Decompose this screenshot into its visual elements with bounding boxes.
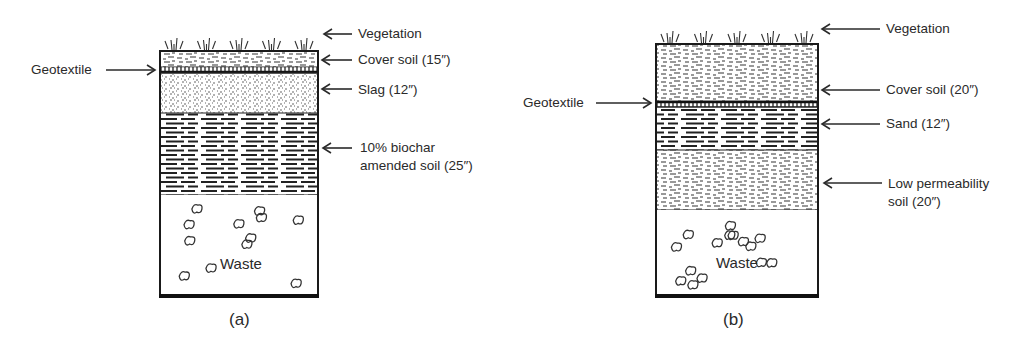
caption-b: (b) bbox=[723, 310, 744, 330]
layer-low-permeability-soil bbox=[656, 150, 818, 210]
vegetation-icon bbox=[230, 38, 248, 50]
layer-geotextile bbox=[160, 67, 318, 73]
landfill-cover-diagram bbox=[0, 0, 1031, 350]
layer-slag bbox=[160, 73, 318, 113]
label-geotextile-b: Geotextile bbox=[523, 94, 584, 111]
vegetation-icon bbox=[728, 31, 746, 43]
vegetation-icon bbox=[661, 31, 679, 43]
layer-geotextile bbox=[656, 101, 818, 107]
layer-cover-soil bbox=[160, 51, 318, 67]
label-waste-a: Waste bbox=[220, 255, 262, 272]
layer-waste bbox=[656, 210, 818, 296]
label-vegetation-b: Vegetation bbox=[886, 20, 950, 37]
label-cover-soil-a: Cover soil (15″) bbox=[358, 51, 451, 68]
vegetation-icon bbox=[795, 31, 813, 43]
layer-waste bbox=[160, 195, 318, 296]
vegetation-icon bbox=[263, 38, 281, 50]
label-biochar-a-line2: amended soil (25″) bbox=[360, 157, 473, 174]
vegetation-icon bbox=[295, 38, 313, 50]
vegetation-icon bbox=[762, 31, 780, 43]
label-cover-soil-b: Cover soil (20″) bbox=[886, 81, 979, 98]
label-sand-b: Sand (12″) bbox=[886, 115, 950, 132]
layer-biochar-amended-soil bbox=[160, 113, 318, 195]
label-slag-a: Slag (12″) bbox=[358, 81, 418, 98]
label-geotextile-a: Geotextile bbox=[31, 61, 92, 78]
label-biochar-a-line1: 10% biochar bbox=[360, 139, 435, 156]
label-vegetation-a: Vegetation bbox=[358, 25, 422, 42]
label-lowperm-b-line2: soil (20″) bbox=[888, 193, 941, 210]
vegetation-icon bbox=[198, 38, 216, 50]
vegetation-icon bbox=[165, 38, 183, 50]
layer-cover-soil bbox=[656, 44, 818, 101]
label-lowperm-b-line1: Low permeability bbox=[888, 175, 989, 192]
vegetation-icon bbox=[695, 31, 713, 43]
label-waste-b: Waste bbox=[716, 254, 758, 271]
caption-a: (a) bbox=[229, 310, 250, 330]
layer-sand bbox=[656, 107, 818, 150]
